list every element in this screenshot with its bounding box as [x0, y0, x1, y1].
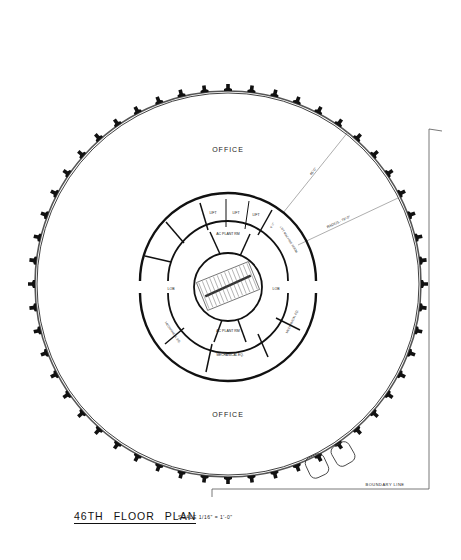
- office-north-label: OFFICE: [212, 146, 244, 153]
- title-word-1: 46TH: [74, 510, 104, 522]
- ac-plant-north-label: AC PLANT RM: [216, 232, 240, 236]
- lobby-west-label: LOB: [167, 287, 175, 291]
- boundary-line-label: BOUNDARY LINE: [365, 482, 404, 487]
- boundary-line: [212, 129, 442, 497]
- dimension-lines: [283, 132, 398, 245]
- mech-east-label: MECHANICAL EQ.: [285, 309, 299, 334]
- lift-1-label: LIFT: [209, 211, 217, 215]
- lobby-east-label: LOB: [272, 287, 280, 291]
- floor-plan-drawing: OFFICE OFFICE LIFT LIFT LIFT AC PLANT RM…: [0, 0, 461, 560]
- lift-machine-room-label: LIFT MACHINE ROOM: [279, 225, 299, 254]
- title-word-2: FLOOR: [114, 510, 155, 522]
- mech-south-label: MECHANICAL EQ.: [216, 353, 243, 357]
- lift-3-label: LIFT: [252, 213, 260, 217]
- scale-value: 1/16" = 1'-0": [199, 514, 233, 520]
- lift-2-label: LIFT: [232, 211, 240, 215]
- ac-plant-south-label: AC PLANT RM: [216, 329, 240, 333]
- core-dimension-label: 6'-0": [269, 222, 276, 229]
- office-south-label: OFFICE: [212, 411, 244, 418]
- scale-label: SCALE: [178, 514, 197, 520]
- perimeter-columns: [28, 84, 428, 484]
- scale-note: SCALE 1/16" = 1'-0": [178, 514, 232, 520]
